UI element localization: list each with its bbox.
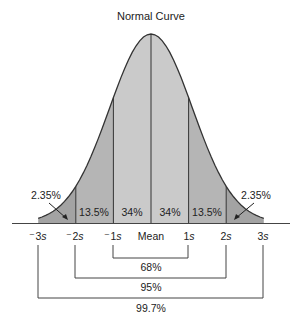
tick-2s: 2s [220,230,232,242]
bracket-label-68: 68% [140,261,161,273]
region-1-2 [189,98,227,223]
bracket-68 [113,245,188,258]
tick-minus3s: ⁻3s [29,230,47,242]
tick-minus2s: ⁻2s [66,230,84,242]
tick-minus1s: ⁻1s [104,230,122,242]
bracket-label-99-7: 99.7% [136,302,166,314]
region-minus2-minus1 [76,98,114,223]
bracket-label-95: 95% [140,281,161,293]
label-13-5-left: 13.5% [79,206,109,218]
label-tail-left: 2.35% [31,189,61,201]
normal-curve-diagram: Normal Curve 13.5% 34% 34% 13.5% 2.35% 2… [0,0,298,324]
label-tail-right: 2.35% [241,189,271,201]
label-13-5-right: 13.5% [192,206,222,218]
tick-mean: Mean [138,230,164,242]
label-34-left: 34% [121,206,142,218]
tick-1s: 1s [183,230,195,242]
tick-3s: 3s [257,230,269,242]
label-34-right: 34% [159,206,180,218]
diagram-title: Normal Curve [117,10,185,22]
